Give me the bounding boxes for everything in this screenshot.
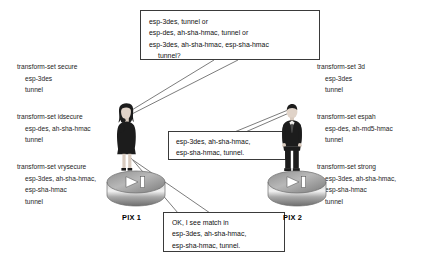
- transform-set-block-strong: transform-set strong esp-3des, ah-sha-hm…: [317, 161, 396, 207]
- transform-set-line: esp-3des: [317, 73, 365, 85]
- device-label-pix1: PIX 1: [122, 213, 141, 222]
- callout-line: OK, I see match in: [172, 217, 278, 228]
- woman-figure: [108, 100, 146, 174]
- network-diagram: transform-set secure esp-3des tunnel tra…: [0, 0, 435, 266]
- device-label-pix2: PIX 2: [283, 213, 302, 222]
- transform-set-block-vrysecure: transform-set vrysecure esp-3des, ah-sha…: [17, 161, 96, 207]
- transform-set-line: tunnel: [17, 134, 91, 146]
- callout-line: esp-des, ah-sha-hmac, tunnel or: [149, 27, 312, 38]
- callout-line: tunnel?: [149, 50, 312, 61]
- transform-set-name: transform-set vrysecure: [17, 161, 96, 173]
- transform-set-block-espah: transform-set espah esp-des, ah-md5-hmac…: [317, 111, 393, 146]
- callout-line: esp-3des, ah-sha-hmac,: [172, 228, 278, 239]
- offer-callout: esp-3des, tunnel or esp-des, ah-sha-hmac…: [140, 10, 320, 60]
- callout-line: esp-3des, tunnel or: [149, 16, 312, 27]
- transform-set-line: esp-des, ah-md5-hmac: [317, 123, 393, 135]
- transform-set-line: tunnel: [317, 196, 396, 208]
- transform-set-line: tunnel: [317, 134, 393, 146]
- man-figure: [273, 100, 311, 174]
- transform-set-line: esp-3des, ah-sha-hmac,: [17, 173, 96, 185]
- reply-callout: esp-3des, ah-sha-hmac, esp-sha-hmac, tun…: [168, 131, 286, 160]
- transform-set-line: esp-des, ah-sha-hmac: [17, 123, 91, 135]
- callout-line: esp-3des, ah-sha-hmac, esp-sha-hmac: [149, 39, 312, 50]
- match-callout: OK, I see match in esp-3des, ah-sha-hmac…: [163, 212, 285, 252]
- transform-set-line: esp-sha-hmac: [317, 184, 396, 196]
- transform-set-line: esp-3des, ah-sha-hmac,: [317, 173, 396, 185]
- transform-set-line: esp-sha-hmac: [17, 184, 96, 196]
- transform-set-line: tunnel: [317, 84, 365, 96]
- callout-line: esp-sha-hmac, tunnel.: [172, 240, 278, 251]
- callout-line: esp-3des, ah-sha-hmac,: [176, 136, 279, 147]
- transform-set-line: esp-3des: [17, 73, 77, 85]
- transform-set-name: transform-set strong: [317, 161, 396, 173]
- transform-set-name: transform-set idsecure: [17, 111, 91, 123]
- transform-set-name: transform-set espah: [317, 111, 393, 123]
- transform-set-block-idsecure: transform-set idsecure esp-des, ah-sha-h…: [17, 111, 91, 146]
- pix-firewall-icon-pix1: [105, 170, 167, 210]
- callout-line: esp-sha-hmac, tunnel.: [176, 147, 279, 158]
- transform-set-block-3d: transform-set 3d esp-3des tunnel: [317, 61, 365, 96]
- pix-firewall-icon-pix2: [266, 170, 328, 210]
- transform-set-line: tunnel: [17, 196, 96, 208]
- transform-set-name: transform-set secure: [17, 61, 77, 73]
- transform-set-name: transform-set 3d: [317, 61, 365, 73]
- transform-set-line: tunnel: [17, 84, 77, 96]
- transform-set-block-secure: transform-set secure esp-3des tunnel: [17, 61, 77, 96]
